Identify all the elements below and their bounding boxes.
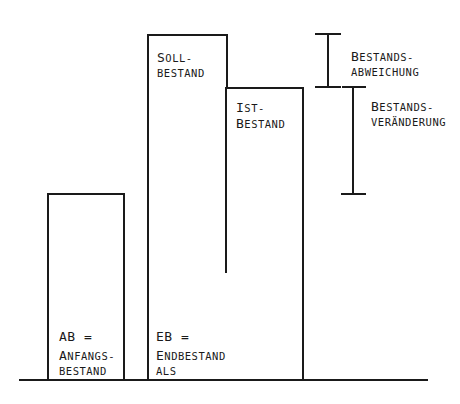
label-sollbestand: SOLL- BESTAND <box>157 49 205 79</box>
label-ist-rest: ST- <box>244 102 264 114</box>
label-soll-line2: BESTAND <box>157 68 205 79</box>
label-ver-rest: ESTANDS- <box>379 101 434 113</box>
label-istbestand: IST- BESTAND <box>236 99 285 131</box>
label-ab-rest: NFANGS- <box>67 350 115 362</box>
label-ab-line1: AB = <box>59 330 115 343</box>
label-bestandsabweichung: BESTANDS- ABWEICHUNG <box>351 48 419 78</box>
label-soll-rest: OLL- <box>165 52 192 64</box>
label-eb-line1: EB = <box>156 330 226 343</box>
label-eb-rest: NDBESTAND <box>164 350 225 362</box>
bar-istbestand <box>227 88 303 380</box>
label-anfangsbestand: AB = ANFANGS- BESTAND <box>59 330 115 377</box>
label-ab-line3: BESTAND <box>59 366 115 377</box>
label-abw-rest: ESTANDS- <box>359 51 414 63</box>
label-bestandsveraenderung: BESTANDS- VERÄNDERUNG <box>371 98 446 128</box>
label-eb-line3: ALS <box>156 366 226 377</box>
label-abw-line2: ABWEICHUNG <box>351 67 419 78</box>
label-endbestand: EB = ENDBESTAND ALS <box>156 330 226 377</box>
label-ist-line2-rest: ESTAND <box>244 118 285 130</box>
label-ver-line2: VERÄNDERUNG <box>371 117 446 128</box>
